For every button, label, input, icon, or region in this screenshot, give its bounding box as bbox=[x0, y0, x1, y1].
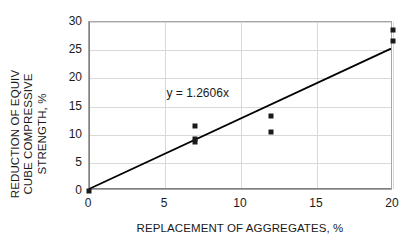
y-axis-tick-label: 30 bbox=[52, 14, 82, 28]
data-point-marker bbox=[391, 38, 396, 43]
x-axis-tick-label: 20 bbox=[372, 196, 412, 210]
x-axis-title: REPLACEMENT OF AGGREGATES, % bbox=[88, 222, 392, 234]
data-point-marker bbox=[391, 28, 396, 33]
y-axis-tick-label: 20 bbox=[52, 70, 82, 84]
y-axis-tick-labels: 051015202530 bbox=[50, 21, 82, 190]
trendline bbox=[89, 22, 391, 189]
data-point-marker bbox=[87, 189, 92, 194]
plot-inner: y = 1.2606x bbox=[89, 22, 391, 189]
data-point-marker bbox=[193, 139, 198, 144]
data-point-marker bbox=[269, 113, 274, 118]
y-axis-tick-label: 5 bbox=[52, 155, 82, 169]
x-axis-tick-label: 0 bbox=[68, 196, 108, 210]
y-axis-title-line-3: STRENGTH, % bbox=[36, 94, 50, 175]
x-axis-tick-label: 5 bbox=[144, 196, 184, 210]
chart-container: REDUCTION OF EQUIV CUBE COMPRESSIVE STRE… bbox=[0, 0, 418, 246]
x-axis-tick-labels: 05101520 bbox=[88, 196, 392, 214]
x-axis-tick-label: 15 bbox=[296, 196, 336, 210]
y-axis-tick-label: 10 bbox=[52, 127, 82, 141]
gridline-vertical bbox=[393, 22, 394, 189]
data-point-marker bbox=[269, 129, 274, 134]
y-axis-title-line-1: REDUCTION OF EQUIV bbox=[9, 70, 23, 198]
y-axis-tick-label: 0 bbox=[52, 183, 82, 197]
plot-area: y = 1.2606x bbox=[88, 21, 392, 190]
x-axis-tick-label: 10 bbox=[220, 196, 260, 210]
y-axis-tick-label: 15 bbox=[52, 99, 82, 113]
data-point-marker bbox=[193, 124, 198, 129]
y-axis-title-line-2: CUBE COMPRESSIVE bbox=[22, 73, 36, 194]
trendline-equation-label: y = 1.2606x bbox=[167, 86, 229, 100]
y-axis-tick-label: 25 bbox=[52, 42, 82, 56]
